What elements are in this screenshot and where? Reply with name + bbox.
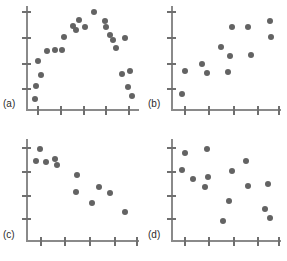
data-point bbox=[182, 68, 188, 74]
x-tick-b-4 bbox=[278, 106, 280, 115]
data-point bbox=[119, 71, 125, 77]
data-point bbox=[190, 176, 196, 182]
scatterplot-figure: (a)(b)(c)(d) bbox=[0, 0, 287, 261]
y-axis-b bbox=[171, 6, 173, 109]
x-tick-c-0 bbox=[40, 237, 42, 246]
data-point bbox=[91, 9, 97, 15]
data-point bbox=[182, 150, 188, 156]
x-tick-d-3 bbox=[257, 237, 259, 246]
x-tick-b-1 bbox=[208, 106, 210, 115]
data-point bbox=[202, 184, 208, 190]
x-tick-a-1 bbox=[60, 106, 62, 115]
data-point bbox=[179, 91, 185, 97]
data-point bbox=[103, 24, 109, 30]
x-tick-b-2 bbox=[233, 106, 235, 115]
data-point bbox=[35, 58, 41, 64]
x-tick-c-2 bbox=[89, 237, 91, 246]
data-point bbox=[245, 183, 251, 189]
data-point bbox=[82, 24, 88, 30]
x-tick-a-0 bbox=[37, 106, 39, 115]
data-point bbox=[204, 146, 210, 152]
data-point bbox=[76, 17, 82, 23]
data-point bbox=[89, 200, 95, 206]
data-point bbox=[204, 70, 210, 76]
data-point bbox=[44, 48, 50, 54]
data-point bbox=[267, 18, 273, 24]
x-tick-d-1 bbox=[208, 237, 210, 246]
panel-label-b: (b) bbox=[148, 99, 160, 109]
y-tick-b-1 bbox=[167, 63, 176, 65]
data-point bbox=[37, 146, 43, 152]
x-tick-d-4 bbox=[278, 237, 280, 246]
data-point bbox=[129, 93, 135, 99]
data-point bbox=[265, 181, 271, 187]
data-point bbox=[122, 35, 128, 41]
data-point bbox=[243, 158, 249, 164]
data-point bbox=[59, 47, 65, 53]
data-point bbox=[33, 83, 39, 89]
y-tick-b-3 bbox=[167, 11, 176, 13]
y-tick-c-0 bbox=[22, 218, 31, 220]
data-point bbox=[107, 190, 113, 196]
data-point bbox=[125, 84, 131, 90]
data-point bbox=[38, 72, 44, 78]
data-point bbox=[74, 172, 80, 178]
x-tick-c-4 bbox=[136, 237, 138, 246]
data-point bbox=[205, 174, 211, 180]
y-tick-d-3 bbox=[167, 147, 176, 149]
data-point bbox=[113, 45, 119, 51]
y-tick-a-2 bbox=[22, 37, 31, 39]
x-tick-a-3 bbox=[105, 106, 107, 115]
data-point bbox=[43, 159, 49, 165]
data-point bbox=[227, 53, 233, 59]
x-tick-b-0 bbox=[184, 106, 186, 115]
panel-label-d: (d) bbox=[148, 230, 160, 240]
data-point bbox=[267, 215, 273, 221]
data-point bbox=[32, 96, 38, 102]
panel-label-a: (a) bbox=[3, 99, 15, 109]
x-tick-c-1 bbox=[64, 237, 66, 246]
data-point bbox=[229, 24, 235, 30]
data-point bbox=[225, 69, 231, 75]
data-point bbox=[73, 27, 79, 33]
x-tick-b-3 bbox=[257, 106, 259, 115]
data-point bbox=[226, 198, 232, 204]
panel-label-c: (c) bbox=[3, 230, 15, 240]
data-point bbox=[110, 37, 116, 43]
data-point bbox=[268, 34, 274, 40]
data-point bbox=[33, 158, 39, 164]
data-point bbox=[248, 52, 254, 58]
data-point bbox=[229, 168, 235, 174]
data-point bbox=[96, 184, 102, 190]
data-point bbox=[73, 189, 79, 195]
y-tick-c-1 bbox=[22, 195, 31, 197]
data-point bbox=[61, 34, 67, 40]
y-tick-b-2 bbox=[167, 37, 176, 39]
x-tick-d-0 bbox=[184, 237, 186, 246]
data-point bbox=[179, 167, 185, 173]
y-tick-d-1 bbox=[167, 195, 176, 197]
x-tick-a-4 bbox=[128, 106, 130, 115]
data-point bbox=[220, 218, 226, 224]
x-axis-b bbox=[171, 109, 281, 111]
y-tick-a-3 bbox=[22, 11, 31, 13]
data-point bbox=[199, 61, 205, 67]
y-tick-a-1 bbox=[22, 63, 31, 65]
data-point bbox=[127, 68, 133, 74]
x-axis-d bbox=[171, 240, 281, 242]
y-tick-a-0 bbox=[22, 88, 31, 90]
y-tick-d-0 bbox=[167, 218, 176, 220]
y-tick-c-2 bbox=[22, 171, 31, 173]
data-point bbox=[54, 162, 60, 168]
x-tick-c-3 bbox=[114, 237, 116, 246]
y-tick-b-0 bbox=[167, 88, 176, 90]
data-point bbox=[218, 44, 224, 50]
data-point bbox=[52, 47, 58, 53]
y-axis-c bbox=[26, 139, 28, 240]
y-tick-d-2 bbox=[167, 171, 176, 173]
data-point bbox=[122, 209, 128, 215]
x-tick-d-2 bbox=[233, 237, 235, 246]
x-axis-c bbox=[26, 240, 139, 242]
y-axis-a bbox=[26, 6, 28, 109]
data-point bbox=[262, 206, 268, 212]
